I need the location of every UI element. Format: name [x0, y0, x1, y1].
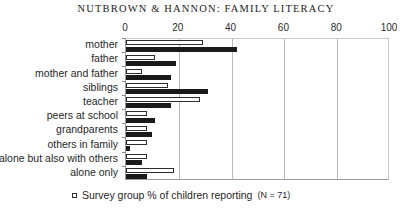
bar-black: [126, 89, 208, 94]
y-category-label: others in family: [47, 139, 118, 150]
y-category-label: grandparents: [56, 124, 118, 135]
legend-label: Survey group % of children reporting: [82, 189, 252, 201]
y-category-label: mother and father: [35, 68, 118, 79]
bar-row: [126, 53, 388, 67]
x-tick-label: 60: [278, 22, 289, 33]
y-axis-category-labels: motherfathermother and fathersiblingstea…: [0, 38, 122, 180]
y-category-label: mother: [85, 39, 118, 50]
legend-sample-size: (N = 71): [257, 190, 290, 200]
bar-row: [126, 124, 388, 138]
bar-white: [126, 154, 147, 159]
x-tick-label: 0: [122, 22, 128, 33]
bar-black: [126, 146, 130, 151]
legend-swatch-white: [72, 193, 77, 198]
bar-black: [126, 61, 176, 66]
bar-white: [126, 97, 200, 102]
chart-title: NUTBROWN & HANNON: FAMILY LITERACY: [0, 3, 412, 14]
plot-area: [125, 38, 389, 180]
bar-row: [126, 138, 388, 152]
y-category-label: alone only: [70, 167, 118, 178]
bar-white: [126, 111, 147, 116]
chart-legend: Survey group % of children reporting (N …: [72, 189, 290, 201]
bar-white: [126, 40, 203, 45]
bar-white: [126, 69, 142, 74]
bar-black: [126, 103, 171, 108]
y-category-label: father: [91, 53, 118, 64]
bar-black: [126, 118, 155, 123]
y-category-label: siblings: [83, 82, 118, 93]
bar-row: [126, 39, 388, 53]
bar-black: [126, 174, 147, 179]
bar-row: [126, 153, 388, 167]
bar-row: [126, 167, 388, 181]
chart-figure: NUTBROWN & HANNON: FAMILY LITERACY 02040…: [0, 0, 412, 208]
bar-row: [126, 82, 388, 96]
x-tick-label: 40: [225, 22, 236, 33]
x-tick-label: 20: [172, 22, 183, 33]
x-tick-label: 80: [331, 22, 342, 33]
bar-rows: [126, 39, 388, 179]
bar-white: [126, 126, 147, 131]
bar-white: [126, 140, 147, 145]
bar-white: [126, 168, 174, 173]
y-category-label: peers at school: [47, 110, 118, 121]
bar-white: [126, 55, 155, 60]
bar-black: [126, 160, 142, 165]
bar-black: [126, 132, 152, 137]
bar-white: [126, 83, 168, 88]
bar-row: [126, 67, 388, 81]
bar-black: [126, 47, 237, 52]
bar-row: [126, 110, 388, 124]
y-category-label: teacher: [83, 96, 118, 107]
bar-black: [126, 75, 171, 80]
y-category-label: alone but also with others: [0, 153, 118, 164]
x-axis-tick-labels: 020406080100: [0, 22, 412, 36]
x-tick-label: 100: [381, 22, 398, 33]
bar-row: [126, 96, 388, 110]
